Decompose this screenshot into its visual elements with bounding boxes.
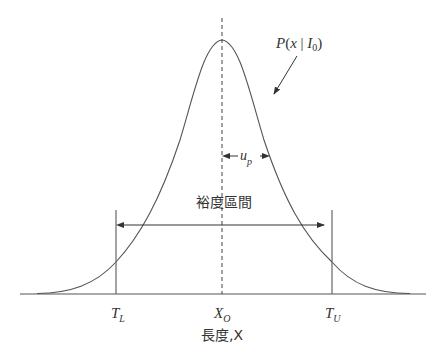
x-axis-label: 長度,X: [201, 327, 243, 343]
tolerance-diagram: P(x | I0) up 裕度區間 TL XO TU 長度,X: [0, 0, 442, 354]
interval-label: 裕度區間: [196, 194, 252, 210]
tick-label-upper: TU: [325, 305, 341, 324]
probability-curve: [37, 40, 410, 294]
tick-label-lower: TL: [111, 305, 125, 324]
curve-label: P(x | I0): [275, 35, 322, 53]
tick-label-center: XO: [213, 305, 230, 324]
curve-pointer-arrow: [274, 56, 297, 94]
interval-arrow-left-head: [116, 222, 124, 228]
up-arrow-left-head: [222, 153, 230, 159]
